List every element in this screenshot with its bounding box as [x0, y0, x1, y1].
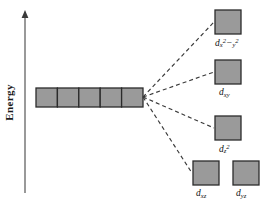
orbital-label-dyz: dyz [236, 189, 246, 199]
orbital-box-dz2 [215, 116, 241, 140]
degenerate-orbital-box [36, 88, 57, 107]
orbital-box-dxy [215, 60, 241, 84]
degenerate-orbital-box [57, 88, 78, 107]
degenerate-orbital-set [36, 88, 143, 107]
orbital-box-dxz [193, 161, 219, 185]
degenerate-orbital-box [79, 88, 100, 107]
degenerate-orbital-box [100, 88, 121, 107]
splitting-connector-dx2-y2 [143, 22, 214, 97]
energy-axis [22, 10, 29, 193]
splitting-connector-dz2 [143, 97, 214, 128]
orbital-label-dxy: dxy [219, 88, 230, 98]
up-arrow-icon [22, 10, 29, 18]
orbital-label-dz2: dz2 [219, 144, 230, 155]
orbital-label-dxz: dxz [196, 189, 206, 199]
degenerate-orbital-box [122, 88, 143, 107]
orbital-label-dx2-y2: dx2−y2 [215, 38, 239, 49]
crystal-field-diagram: Energy dx2−y2dxydz2dxzdyz [0, 0, 265, 205]
splitting-connector-dxy [143, 72, 214, 97]
splitting-connector-dxz [143, 97, 192, 173]
diagram-graphics [0, 0, 265, 205]
splitting-connectors [143, 22, 214, 173]
orbital-box-dyz [233, 161, 259, 185]
orbital-box-dx2-y2 [215, 10, 241, 34]
